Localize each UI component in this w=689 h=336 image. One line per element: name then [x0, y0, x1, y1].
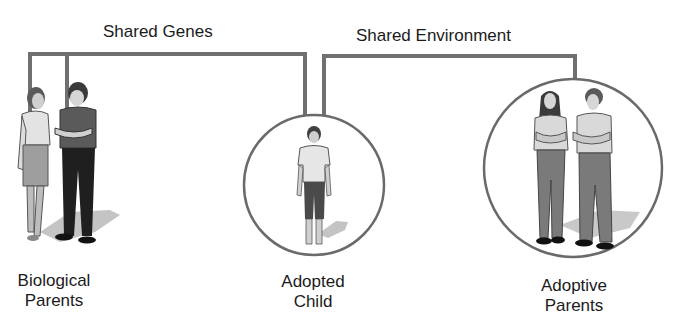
- adoptive-parents-label-line2: Parents: [524, 296, 624, 316]
- adopted-child-label: Adopted Child: [263, 272, 363, 312]
- biological-parents-label: Biological Parents: [4, 271, 104, 311]
- biological-mother-figure: [18, 87, 50, 241]
- shared-genes-label: Shared Genes: [103, 22, 213, 42]
- biological-parents-label-line2: Parents: [4, 291, 104, 311]
- adopted-child-label-line2: Child: [263, 292, 363, 312]
- adoptive-parents-label: Adoptive Parents: [524, 276, 624, 316]
- biological-parents-label-line1: Biological: [4, 271, 104, 291]
- shared-environment-label: Shared Environment: [356, 26, 511, 46]
- adoptive-parents-label-line1: Adoptive: [524, 276, 624, 296]
- adopted-child-label-line1: Adopted: [263, 272, 363, 292]
